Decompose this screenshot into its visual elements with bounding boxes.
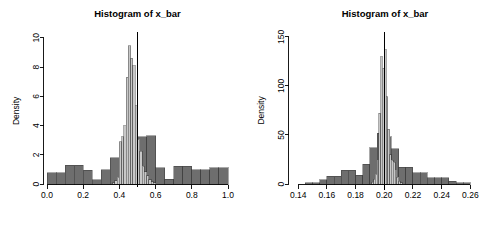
right-plot-panel: Histogram of x_barDensity0.140.160.180.2… xyxy=(247,0,494,225)
x-axis-tick-label: 0.26 xyxy=(462,190,479,200)
histogram-bar xyxy=(356,175,363,184)
histogram-bar xyxy=(320,180,327,184)
histogram-bar xyxy=(391,160,393,184)
histogram-bar xyxy=(372,182,374,184)
histogram-bar xyxy=(406,167,413,184)
left-plot-panel: Histogram of x_barDensity0.00.20.40.60.8… xyxy=(0,0,247,225)
histogram-bar xyxy=(174,166,183,184)
histogram-bar xyxy=(149,180,151,184)
histogram-bar xyxy=(122,137,124,185)
y-axis-tick-label: 4 xyxy=(31,123,41,128)
x-axis-tick-label: 0.14 xyxy=(290,190,307,200)
histogram-bar xyxy=(151,182,153,184)
y-axis-tick-label: 2 xyxy=(31,152,41,157)
right-histogram-svg: Histogram of x_barDensity0.140.160.180.2… xyxy=(247,0,494,225)
y-axis-label: Density xyxy=(256,96,266,125)
histogram-bar xyxy=(374,179,376,184)
histogram-bar xyxy=(334,176,341,184)
y-axis-tick-label: 8 xyxy=(31,64,41,69)
histogram-bar xyxy=(420,173,427,184)
histogram-bar xyxy=(427,178,434,184)
y-axis-tick-label: 50 xyxy=(276,130,286,140)
figure-root: Histogram of x_barDensity0.00.20.40.60.8… xyxy=(0,0,494,225)
histogram-bar xyxy=(65,165,74,184)
histogram-bar xyxy=(140,151,142,184)
x-axis-tick-label: 0.16 xyxy=(319,190,336,200)
histogram-bar xyxy=(348,170,355,184)
histogram-bar xyxy=(393,162,395,184)
y-axis-label: Density xyxy=(11,96,21,125)
left-histogram-svg: Histogram of x_barDensity0.00.20.40.60.8… xyxy=(0,0,247,225)
histogram-bar xyxy=(201,170,210,184)
histogram-bar xyxy=(183,166,192,184)
histogram-bar xyxy=(156,168,165,184)
y-axis-tick-label: 6 xyxy=(31,94,41,99)
histogram-bar xyxy=(313,183,320,184)
histogram-bar xyxy=(397,177,399,184)
y-axis-tick-label: 10 xyxy=(31,33,41,43)
histogram-bar xyxy=(83,170,92,184)
histogram-bar xyxy=(388,129,390,184)
x-axis-tick-label: 0.0 xyxy=(41,190,53,200)
x-axis-tick-label: 0.4 xyxy=(113,190,125,200)
x-axis-tick-label: 0.22 xyxy=(405,190,422,200)
histogram-bar xyxy=(92,180,101,184)
histogram-bar xyxy=(126,77,128,184)
histogram-bar xyxy=(119,142,121,184)
histogram-bar xyxy=(147,176,149,184)
y-axis-tick-label: 0 xyxy=(31,181,41,186)
y-axis-tick-label: 0 xyxy=(276,181,286,186)
plot-title: Histogram of x_bar xyxy=(342,8,429,19)
histogram-bar xyxy=(363,164,370,184)
histogram-bar xyxy=(165,179,174,184)
histogram-bar xyxy=(101,170,110,184)
x-axis-tick-label: 0.8 xyxy=(186,190,198,200)
histogram-bar xyxy=(74,165,83,184)
histogram-bar xyxy=(305,183,312,184)
histogram-bar xyxy=(381,57,383,184)
histogram-bar xyxy=(113,183,115,184)
histogram-bar xyxy=(117,177,119,184)
y-axis-tick-label: 100 xyxy=(276,79,286,93)
histogram-bar xyxy=(153,183,155,184)
histogram-bar xyxy=(435,178,442,184)
histogram-bar xyxy=(399,181,401,184)
x-axis-tick-label: 0.18 xyxy=(347,190,364,200)
histogram-bar xyxy=(115,181,117,184)
histogram-bar xyxy=(379,113,381,184)
x-axis-tick-label: 0.24 xyxy=(433,190,450,200)
histogram-bar xyxy=(442,178,449,184)
histogram-bar xyxy=(219,168,228,184)
histogram-bar xyxy=(56,173,65,184)
histogram-bar xyxy=(144,172,146,184)
histogram-bar xyxy=(390,155,392,184)
histogram-bar xyxy=(133,66,135,184)
y-axis-tick-label: 150 xyxy=(276,30,286,44)
histogram-bar xyxy=(400,183,402,184)
histogram-bar xyxy=(449,181,456,184)
x-axis-tick-label: 0.6 xyxy=(150,190,162,200)
histogram-bar xyxy=(131,58,133,184)
histogram-bar xyxy=(47,173,56,184)
histogram-bar xyxy=(210,168,219,184)
histogram-bar xyxy=(192,170,201,184)
histogram-bar xyxy=(377,160,379,184)
histogram-bar xyxy=(395,170,397,184)
x-axis-tick-label: 1.0 xyxy=(222,190,234,200)
histogram-bar xyxy=(463,183,470,184)
x-axis-tick-label: 0.2 xyxy=(77,190,89,200)
histogram-bar xyxy=(142,166,144,184)
histogram-bar xyxy=(124,126,126,184)
histogram-bar xyxy=(413,173,420,184)
histogram-bar xyxy=(375,174,377,184)
histogram-bar xyxy=(341,170,348,184)
histogram-bar xyxy=(386,97,388,184)
x-axis-tick-label: 0.20 xyxy=(376,190,393,200)
histogram-bar xyxy=(128,46,130,184)
histogram-bar xyxy=(327,176,334,184)
histogram-bar xyxy=(456,183,463,184)
plot-title: Histogram of x_bar xyxy=(94,8,181,19)
